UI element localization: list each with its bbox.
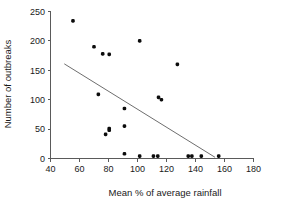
x-tick-label: 100 xyxy=(130,164,145,174)
data-point xyxy=(104,133,108,137)
data-point xyxy=(107,128,111,132)
data-point xyxy=(101,52,105,56)
plot-svg: 050100150200250 406080100120140160180 Me… xyxy=(0,0,293,202)
data-point xyxy=(123,124,127,128)
data-point xyxy=(71,19,75,23)
y-tick-label: 250 xyxy=(30,7,45,17)
data-point xyxy=(157,96,161,100)
x-tick-label: 120 xyxy=(159,164,174,174)
x-tick-label: 140 xyxy=(188,164,203,174)
y-tick-label: 0 xyxy=(40,154,45,164)
x-tick-label: 160 xyxy=(217,164,232,174)
data-point xyxy=(152,154,156,158)
data-point xyxy=(156,154,160,158)
y-tick-label: 200 xyxy=(30,36,45,46)
x-tick-label: 40 xyxy=(45,164,55,174)
data-point-series xyxy=(71,19,220,158)
trend-line xyxy=(64,64,215,157)
y-tick-label: 100 xyxy=(30,95,45,105)
y-axis: 050100150200250 xyxy=(30,7,51,164)
data-point xyxy=(138,39,142,43)
data-point xyxy=(217,154,221,158)
x-axis: 406080100120140160180 xyxy=(45,159,261,174)
y-tick-group: 050100150200250 xyxy=(30,7,51,164)
data-point xyxy=(160,98,164,102)
x-tick-label: 80 xyxy=(103,164,113,174)
x-tick-group: 406080100120140160180 xyxy=(45,159,261,174)
x-axis-title: Mean % of average rainfall xyxy=(108,187,221,198)
data-point xyxy=(176,63,180,67)
y-tick-label: 50 xyxy=(35,124,45,134)
x-tick-label: 60 xyxy=(74,164,84,174)
scatter-chart: 050100150200250 406080100120140160180 Me… xyxy=(0,0,293,202)
data-point xyxy=(186,154,190,158)
y-tick-label: 150 xyxy=(30,66,45,76)
x-tick-label: 180 xyxy=(246,164,261,174)
data-point xyxy=(107,53,111,57)
data-point xyxy=(92,45,96,49)
data-point xyxy=(190,154,194,158)
data-point xyxy=(123,107,127,111)
data-point xyxy=(200,154,204,158)
data-point xyxy=(138,154,142,158)
y-axis-title: Number of outbreaks xyxy=(2,39,13,128)
data-point xyxy=(123,152,127,156)
data-point xyxy=(97,93,101,97)
